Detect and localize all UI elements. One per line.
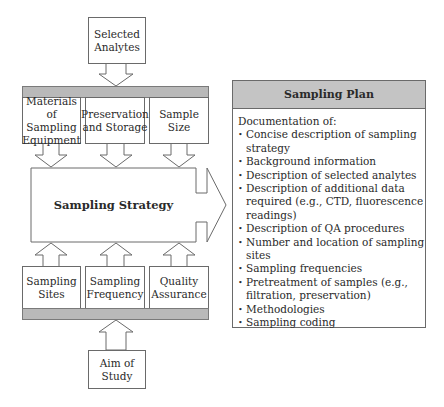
materials-box: Materials of Sampling Equipment	[22, 97, 81, 144]
selected-analytes-label: Selected Analytes	[89, 28, 145, 54]
preservation-box: Preservation and Storage	[85, 97, 145, 144]
list-item: Sampling coding	[238, 316, 425, 329]
sampling-strategy-label: Sampling Strategy	[54, 198, 174, 212]
arrow-down-materials	[35, 143, 67, 167]
list-item: Sampling frequencies	[238, 262, 425, 275]
plan-intro: Documentation of:	[238, 115, 425, 128]
materials-label: Materials of Sampling Equipment	[22, 95, 80, 147]
bottom-bar	[22, 308, 209, 320]
sampling-plan-panel: Sampling Plan Documentation of: Concise …	[232, 80, 426, 328]
sampling-plan-header: Sampling Plan	[233, 81, 425, 109]
sampling-frequency-box: Sampling Frequency	[85, 266, 145, 309]
quality-assurance-label: Quality Assurance	[150, 275, 208, 301]
selected-analytes-box: Selected Analytes	[88, 17, 146, 64]
sampling-plan-body: Documentation of: Concise description of…	[233, 109, 425, 330]
list-item: Pretreatment of samples (e.g., filtratio…	[238, 276, 425, 303]
quality-assurance-box: Quality Assurance	[149, 266, 209, 309]
sampling-strategy-box: Sampling Strategy	[31, 168, 196, 242]
arrow-down-preservation	[100, 143, 132, 167]
plan-list: Concise description of sampling strategy…	[238, 128, 425, 329]
list-item: Number and location of sampling sites	[238, 236, 425, 263]
sample-size-label: Sample Size	[150, 108, 208, 134]
list-item: Background information	[238, 155, 425, 168]
aim-of-study-label: Aim of Study	[89, 357, 145, 383]
sampling-plan-title: Sampling Plan	[284, 88, 374, 101]
arrow-up-frequency	[100, 243, 132, 267]
arrow-up-sites	[35, 243, 67, 267]
sampling-frequency-label: Sampling Frequency	[86, 275, 144, 301]
arrow-down-analytes	[99, 63, 133, 86]
list-item: Description of additional data required …	[238, 182, 425, 222]
sample-size-box: Sample Size	[149, 97, 209, 144]
sampling-sites-label: Sampling Sites	[23, 275, 80, 301]
sampling-sites-box: Sampling Sites	[22, 266, 81, 309]
list-item: Description of QA procedures	[238, 222, 425, 235]
arrow-up-aim	[99, 320, 133, 350]
preservation-label: Preservation and Storage	[81, 108, 149, 134]
arrow-down-samplesize	[163, 143, 195, 167]
list-item: Methodologies	[238, 303, 425, 316]
list-item: Description of selected analytes	[238, 169, 425, 182]
aim-of-study-box: Aim of Study	[88, 350, 146, 389]
arrow-up-qa	[163, 243, 195, 267]
list-item: Concise description of sampling strategy	[238, 128, 425, 155]
